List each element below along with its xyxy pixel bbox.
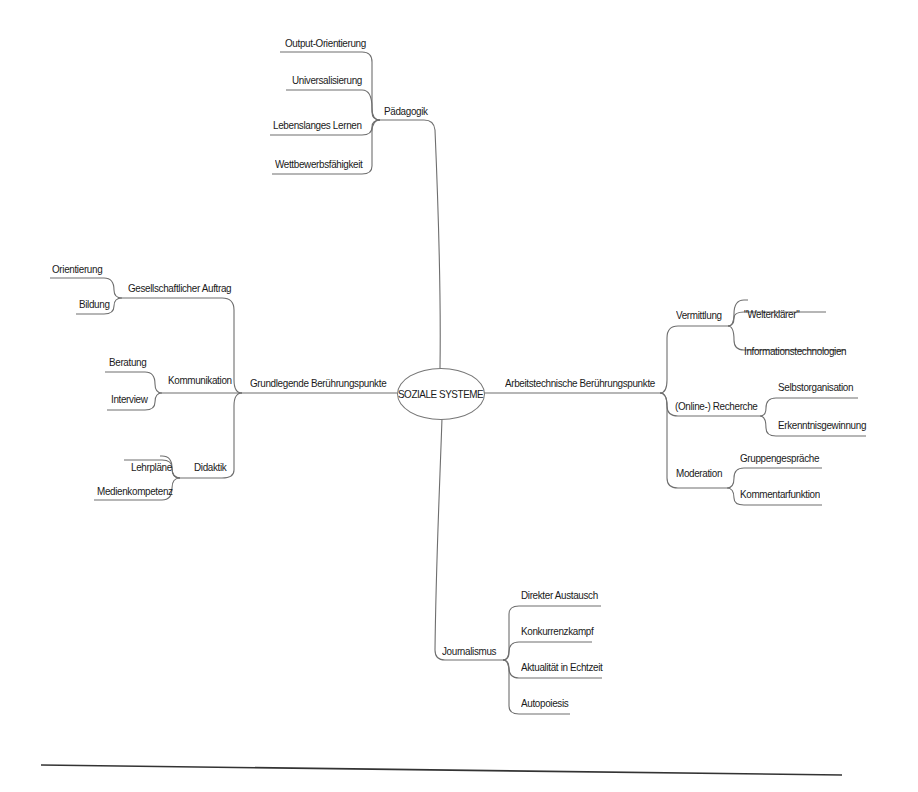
- leaf-output-orientierung[interactable]: Output-Orientierung: [285, 36, 366, 50]
- leaf-selbstorganisation[interactable]: Selbstorganisation: [778, 380, 853, 394]
- branch-grundlegende-beruehrungspunkte[interactable]: Grundlegende Berührungspunkte: [250, 376, 386, 390]
- leaf-wettbewerbsfaehigkeit[interactable]: Wettbewerbsfähigkeit: [275, 157, 362, 171]
- subbranch-didaktik[interactable]: Didaktik: [194, 460, 226, 474]
- leaf-aktualitaet-in-echtzeit[interactable]: Aktualität in Echtzeit: [521, 660, 602, 674]
- bottom-rule: [41, 765, 842, 775]
- subbranch-gesellschaftlicher-auftrag[interactable]: Gesellschaftlicher Auftrag: [128, 281, 231, 295]
- leaf-welterklaerer[interactable]: "Welterklärer": [744, 307, 799, 321]
- subbranch-vermittlung[interactable]: Vermittlung: [676, 308, 722, 322]
- leaf-erkenntnisgewinnung[interactable]: Erkenntnisgewinnung: [778, 418, 866, 432]
- branch-paedagogik[interactable]: Pädagogik: [384, 104, 428, 118]
- leaf-bildung[interactable]: Bildung: [79, 297, 110, 311]
- leaf-beratung[interactable]: Beratung: [109, 355, 146, 369]
- mindmap-canvas: SOZIALE SYSTEME Pädagogik Output-Orienti…: [0, 0, 918, 792]
- center-node[interactable]: SOZIALE SYSTEME: [397, 368, 485, 420]
- branch-journalismus[interactable]: Journalismus: [442, 644, 496, 658]
- leaf-universalisierung[interactable]: Universalisierung: [292, 73, 362, 87]
- leaf-orientierung[interactable]: Orientierung: [52, 262, 102, 276]
- subbranch-moderation[interactable]: Moderation: [676, 466, 722, 480]
- leaf-lehrplaene[interactable]: Lehrpläne: [131, 460, 172, 474]
- leaf-direkter-austausch[interactable]: Direkter Austausch: [521, 588, 598, 602]
- leaf-medienkompetenz[interactable]: Medienkompetenz: [97, 484, 173, 498]
- subbranch-kommunikation[interactable]: Kommunikation: [168, 373, 232, 387]
- center-node-label: SOZIALE SYSTEME: [398, 388, 483, 400]
- branch-arbeitstechnische-beruehrungspunkte[interactable]: Arbeitstechnische Berührungspunkte: [505, 376, 655, 390]
- subbranch-online-recherche[interactable]: (Online-) Recherche: [675, 399, 758, 413]
- leaf-kommentarfunktion[interactable]: Kommentarfunktion: [740, 487, 820, 501]
- leaf-informationstechnologien[interactable]: Informationstechnologien: [744, 344, 846, 358]
- leaf-gruppengespraeche[interactable]: Gruppengespräche: [740, 451, 819, 465]
- leaf-lebenslanges-lernen[interactable]: Lebenslanges Lernen: [273, 118, 362, 132]
- leaf-konkurrenzkampf[interactable]: Konkurrenzkampf: [521, 624, 593, 638]
- leaf-interview[interactable]: Interview: [111, 392, 147, 406]
- leaf-autopoiesis[interactable]: Autopoiesis: [521, 696, 568, 710]
